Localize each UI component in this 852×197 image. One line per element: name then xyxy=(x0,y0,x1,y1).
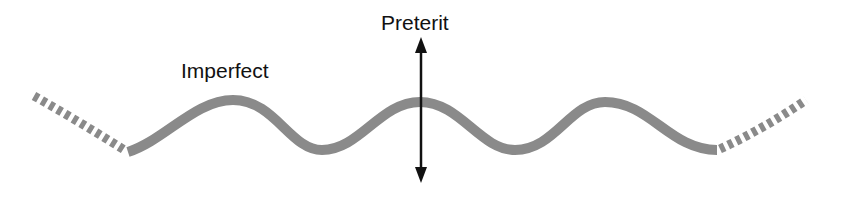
double-arrow-icon xyxy=(415,37,427,183)
wave-dashed-right xyxy=(720,100,806,149)
imperfect-label: Imperfect xyxy=(181,60,269,81)
wave-solid xyxy=(128,100,717,152)
preterit-label: Preterit xyxy=(381,12,449,33)
wave-dashed-left xyxy=(34,96,126,151)
imperfect-preterit-diagram: Imperfect Preterit xyxy=(0,0,852,197)
